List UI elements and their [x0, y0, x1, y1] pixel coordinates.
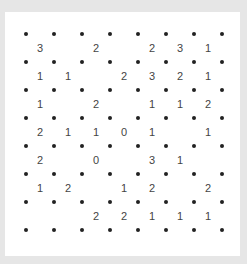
- puzzle-cell[interactable]: [194, 146, 222, 174]
- puzzle-cell[interactable]: 1: [166, 90, 194, 118]
- puzzle-cell[interactable]: [82, 174, 110, 202]
- puzzle-cell[interactable]: 1: [194, 118, 222, 146]
- puzzle-cell[interactable]: [110, 146, 138, 174]
- puzzle-cell[interactable]: [166, 118, 194, 146]
- puzzle-board: 322311123211211221101120311212222111: [5, 12, 240, 256]
- puzzle-cell[interactable]: [110, 90, 138, 118]
- puzzle-cell[interactable]: 0: [82, 146, 110, 174]
- puzzle-cell[interactable]: [54, 202, 82, 230]
- puzzle-cell[interactable]: 2: [54, 174, 82, 202]
- puzzle-cell[interactable]: 2: [26, 118, 54, 146]
- puzzle-cell[interactable]: 1: [54, 62, 82, 90]
- puzzle-cell[interactable]: [26, 202, 54, 230]
- puzzle-cell[interactable]: [54, 90, 82, 118]
- puzzle-cell[interactable]: 1: [110, 174, 138, 202]
- puzzle-cell[interactable]: 2: [138, 34, 166, 62]
- puzzle-cell[interactable]: [82, 62, 110, 90]
- puzzle-cell[interactable]: 2: [82, 90, 110, 118]
- puzzle-cell[interactable]: 1: [166, 202, 194, 230]
- puzzle-cell[interactable]: 0: [110, 118, 138, 146]
- puzzle-cell[interactable]: 1: [54, 118, 82, 146]
- puzzle-cell[interactable]: 1: [138, 202, 166, 230]
- puzzle-cell[interactable]: 2: [194, 90, 222, 118]
- puzzle-cell[interactable]: [110, 34, 138, 62]
- puzzle-cell[interactable]: 1: [166, 146, 194, 174]
- puzzle-cell[interactable]: 1: [194, 34, 222, 62]
- puzzle-cell[interactable]: 1: [82, 118, 110, 146]
- puzzle-cell[interactable]: 2: [110, 202, 138, 230]
- puzzle-cell[interactable]: 3: [138, 146, 166, 174]
- puzzle-cell[interactable]: [54, 146, 82, 174]
- puzzle-cell[interactable]: 2: [138, 174, 166, 202]
- puzzle-cell[interactable]: 2: [82, 202, 110, 230]
- puzzle-cell[interactable]: 1: [26, 90, 54, 118]
- puzzle-cell[interactable]: 1: [138, 90, 166, 118]
- puzzle-cell[interactable]: 3: [166, 34, 194, 62]
- puzzle-cell[interactable]: 1: [138, 118, 166, 146]
- puzzle-cell[interactable]: 2: [110, 62, 138, 90]
- puzzle-cell[interactable]: [166, 174, 194, 202]
- puzzle-cell[interactable]: 1: [26, 62, 54, 90]
- puzzle-cell[interactable]: 3: [26, 34, 54, 62]
- puzzle-cell[interactable]: 1: [194, 62, 222, 90]
- puzzle-cell[interactable]: 3: [138, 62, 166, 90]
- puzzle-cell[interactable]: 1: [194, 202, 222, 230]
- puzzle-cell[interactable]: 2: [82, 34, 110, 62]
- puzzle-cell[interactable]: [54, 34, 82, 62]
- puzzle-cell[interactable]: 2: [26, 146, 54, 174]
- puzzle-cell[interactable]: 1: [26, 174, 54, 202]
- puzzle-cell[interactable]: 2: [166, 62, 194, 90]
- puzzle-cell[interactable]: 2: [194, 174, 222, 202]
